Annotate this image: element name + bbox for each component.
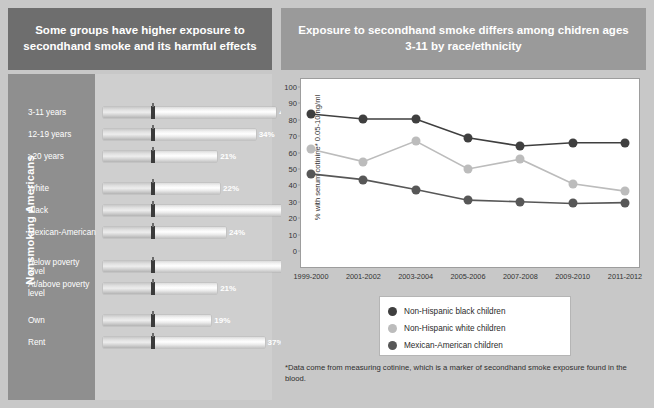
cigarette-band — [151, 106, 155, 119]
series-point — [307, 110, 316, 119]
cigarette-tick — [152, 311, 154, 315]
cigarette-bar — [103, 205, 294, 216]
cigarette-tick — [152, 223, 154, 227]
cigarette-band — [151, 128, 155, 141]
bar-row: Own19% — [8, 310, 272, 332]
header-right-title: Exposure to secondhand smoke differs amo… — [281, 8, 646, 70]
cigarette-bar — [103, 129, 256, 140]
cigarette-band — [151, 314, 155, 327]
x-tick-label: 2003-2004 — [398, 272, 433, 281]
bar-row: Black47% — [8, 200, 272, 222]
legend-item: Mexican-American children — [388, 337, 562, 353]
series-point — [411, 137, 420, 146]
bar-value-label: 22% — [223, 181, 239, 195]
cigarette-bar — [103, 261, 282, 272]
bar-row-label: At/above poverty level — [28, 278, 96, 300]
cigarette-filter — [103, 261, 153, 272]
x-tick-label: 2005-2006 — [451, 272, 486, 281]
legend-label: Non-Hispanic black children — [404, 307, 505, 316]
y-tick-label: 100 — [284, 83, 297, 92]
y-tick-label: 10 — [289, 230, 297, 239]
bar-row: ≥20 years21% — [8, 146, 272, 168]
bar-row-label: 12-19 years — [28, 124, 96, 146]
cigarette-bar — [103, 337, 265, 348]
series-point — [464, 165, 473, 174]
bar-row-label: Black — [28, 200, 96, 222]
cigarette-filter — [103, 283, 153, 294]
bar-value-label: 21% — [220, 281, 236, 295]
footnote-text: *Data come from measuring cotinine, whic… — [285, 362, 641, 384]
y-tick-label: 0 — [293, 247, 297, 256]
legend-marker-icon — [388, 341, 397, 350]
infographic-page: Some groups have higher exposure to seco… — [0, 0, 654, 408]
cigarette-tick — [152, 179, 154, 183]
series-point — [359, 114, 368, 123]
right-line-chart-panel: % with serum cotinine* 0.05-10 ng/ml 010… — [281, 74, 646, 400]
cigarette-tick — [152, 201, 154, 205]
series-point — [411, 185, 420, 194]
chart-legend: Non-Hispanic black childrenNon-Hispanic … — [379, 296, 571, 356]
cigarette-band — [151, 150, 155, 163]
legend-item: Non-Hispanic white children — [388, 320, 562, 336]
series-point — [359, 175, 368, 184]
cigarette-bar — [103, 283, 217, 294]
series-point — [621, 198, 630, 207]
x-tick-label: 2007-2008 — [503, 272, 538, 281]
bar-row: Rent37% — [8, 332, 272, 354]
series-point — [516, 197, 525, 206]
legend-marker-icon — [388, 324, 397, 333]
cigarette-filter — [103, 227, 153, 238]
cigarette-filter — [103, 107, 153, 118]
series-point — [516, 142, 525, 151]
cigarette-tick — [152, 147, 154, 151]
y-tick-label: 70 — [289, 132, 297, 141]
series-point — [621, 138, 630, 147]
cigarette-band — [151, 260, 155, 273]
cigarette-tick — [152, 125, 154, 129]
cigarette-filter — [103, 151, 153, 162]
cigarette-bar — [103, 151, 217, 162]
cigarette-band — [151, 226, 155, 239]
cigarette-filter — [103, 315, 153, 326]
series-point — [359, 157, 368, 166]
y-tick-label: 40 — [289, 181, 297, 190]
bar-row: 12-19 years34% — [8, 124, 272, 146]
cigarette-tick — [152, 103, 154, 107]
cigarette-filter — [103, 183, 153, 194]
cigarette-band — [151, 282, 155, 295]
bar-value-label: 19% — [214, 313, 230, 327]
cigarette-filter — [103, 205, 153, 216]
bar-row-label: 3-11 years — [28, 102, 96, 124]
legend-item: Non-Hispanic black children — [388, 303, 562, 319]
bar-row-label: White — [28, 178, 96, 200]
x-tick-label: 2001-2002 — [346, 272, 381, 281]
header-left-title: Some groups have higher exposure to seco… — [8, 8, 272, 70]
cigarette-tick — [152, 279, 154, 283]
left-bar-chart-panel: Nonsmoking Americans 3-11 years41%12-19 … — [8, 74, 272, 400]
series-point — [568, 138, 577, 147]
cigarette-filter — [103, 337, 153, 348]
cigarette-bar — [103, 227, 226, 238]
bar-row: White22% — [8, 178, 272, 200]
series-point — [568, 199, 577, 208]
bar-row-label: Own — [28, 310, 96, 332]
bar-value-label: 21% — [220, 149, 236, 163]
bar-row: Below poverty level43% — [8, 256, 272, 278]
bar-row: 3-11 years41% — [8, 102, 272, 124]
x-tick-label: 2009-2010 — [555, 272, 590, 281]
series-point — [464, 133, 473, 142]
y-tick-label: 50 — [289, 165, 297, 174]
bar-row-label: Mexican-American — [28, 222, 96, 244]
cigarette-bar — [103, 107, 276, 118]
bar-value-label: 34% — [259, 127, 275, 141]
series-point — [464, 196, 473, 205]
series-point — [568, 179, 577, 188]
series-point — [307, 169, 316, 178]
y-tick-label: 20 — [289, 214, 297, 223]
bar-row: Mexican-American24% — [8, 222, 272, 244]
plot-area: % with serum cotinine* 0.05-10 ng/ml 010… — [300, 78, 640, 268]
y-tick-label: 30 — [289, 197, 297, 206]
bar-row-label: ≥20 years — [28, 146, 96, 168]
bar-value-label: 24% — [229, 225, 245, 239]
series-point — [307, 145, 316, 154]
